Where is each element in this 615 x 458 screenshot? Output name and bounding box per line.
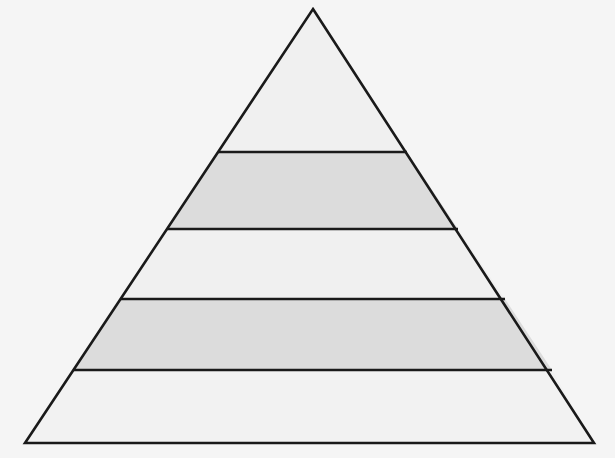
pyramid-level-1-apex[interactable] [218, 9, 407, 152]
pyramid-diagram [0, 0, 615, 458]
pyramid-band-layer [25, 9, 594, 443]
pyramid-level-5-base[interactable] [25, 370, 594, 443]
pyramid-level-4[interactable] [73, 299, 552, 370]
pyramid-diagram-canvas [0, 0, 615, 458]
pyramid-level-3[interactable] [120, 229, 505, 299]
